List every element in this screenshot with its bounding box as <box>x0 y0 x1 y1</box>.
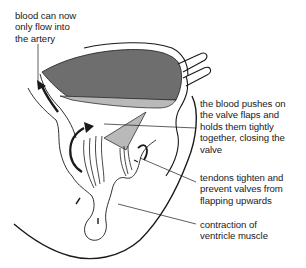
label-line: ventricle muscle <box>200 230 268 241</box>
label-line: tendons tighten and <box>200 172 283 183</box>
label-line: the blood pushes on <box>200 98 285 109</box>
label-line: valve <box>200 144 285 155</box>
label-line: only flow into <box>15 21 76 32</box>
blood-flow-arrow <box>42 86 58 112</box>
small-arrow-mark-1 <box>76 198 80 204</box>
valve-leaflet-right <box>120 146 132 176</box>
label-tendons: tendons tighten and prevent valves from … <box>200 172 283 206</box>
atrium-blood-region <box>42 50 182 101</box>
right-curved-arrow <box>138 145 147 160</box>
papillary-muscle <box>72 140 156 240</box>
valve-leaflet-left <box>84 136 104 188</box>
ventricle-outer-wall <box>14 96 196 259</box>
label-artery-flow: blood can now only flow into the artery <box>15 10 76 44</box>
label-ventricle-contraction: contraction of ventricle muscle <box>200 219 268 242</box>
label-line: together, closing the <box>200 132 285 143</box>
curved-flow-arrowhead <box>84 122 94 133</box>
label-line: the artery <box>15 33 76 44</box>
curved-flow-arrow <box>70 128 84 172</box>
label-line: flapping upwards <box>200 195 283 206</box>
label-valve-closing: the blood pushes on the valve flaps and … <box>200 98 285 155</box>
heart-diagram: blood can now only flow into the artery … <box>0 0 306 268</box>
label-line: prevent valves from <box>200 183 283 194</box>
valve-pressure-wedge <box>104 112 146 150</box>
leader-valve <box>104 124 196 128</box>
label-line: the valve flaps and <box>200 109 285 120</box>
label-line: blood can now <box>15 10 76 21</box>
label-line: contraction of <box>200 219 268 230</box>
small-arrow-mark-3 <box>134 160 138 162</box>
label-line: holds them tightly <box>200 121 285 132</box>
